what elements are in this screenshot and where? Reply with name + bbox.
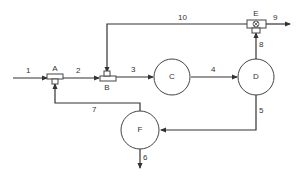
stream-7: 7 xyxy=(55,84,140,114)
stream-2: 2 xyxy=(63,66,99,78)
svg-text:4: 4 xyxy=(211,65,216,74)
node-c: C xyxy=(154,59,190,95)
stream-9: 9 xyxy=(266,13,290,24)
stream-5: 5 xyxy=(161,95,264,130)
svg-text:9: 9 xyxy=(273,13,278,22)
svg-text:1: 1 xyxy=(26,66,31,75)
svg-text:F: F xyxy=(138,125,143,134)
svg-text:5: 5 xyxy=(259,106,264,115)
svg-text:2: 2 xyxy=(76,66,81,75)
stream-3: 3 xyxy=(116,65,153,77)
node-d: D xyxy=(238,59,274,95)
svg-text:8: 8 xyxy=(259,40,264,49)
process-flow-diagram: 1 2 3 4 8 9 10 5 7 6 xyxy=(0,0,299,179)
stream-1: 1 xyxy=(13,66,47,78)
node-b: B xyxy=(100,71,116,92)
stream-6: 6 xyxy=(140,149,148,168)
svg-text:C: C xyxy=(169,72,175,81)
stream-8: 8 xyxy=(256,33,264,59)
stream-4: 4 xyxy=(191,65,237,77)
svg-text:6: 6 xyxy=(143,153,148,162)
svg-text:D: D xyxy=(253,72,259,81)
svg-text:3: 3 xyxy=(131,65,136,74)
node-e: E xyxy=(247,9,266,33)
svg-text:E: E xyxy=(253,9,258,18)
svg-text:7: 7 xyxy=(92,105,97,114)
svg-text:B: B xyxy=(104,83,109,92)
node-a: A xyxy=(47,64,63,84)
node-f: F xyxy=(121,111,159,149)
svg-text:A: A xyxy=(52,64,58,73)
svg-text:10: 10 xyxy=(178,13,187,22)
